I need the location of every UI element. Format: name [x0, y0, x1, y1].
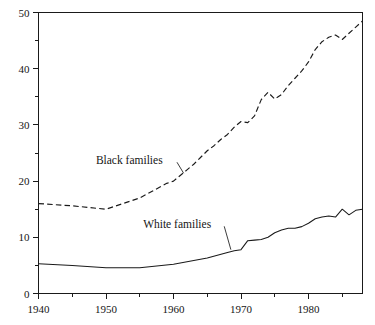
y-tick-label: 40 [19, 63, 31, 75]
x-tick-label: 1960 [163, 303, 186, 315]
x-tick-label: 1950 [95, 303, 118, 315]
x-axis-tick-labels: 19401950196019701980 [28, 303, 321, 315]
y-axis-ticks [33, 13, 39, 294]
y-tick-label: 30 [19, 119, 31, 131]
black-families-label-leader-line [177, 162, 184, 173]
y-tick-label: 20 [19, 175, 31, 187]
y-tick-label: 50 [19, 7, 31, 19]
x-tick-label: 1940 [28, 303, 51, 315]
y-axis-tick-labels: 01020304050 [19, 7, 31, 300]
plot-frame [39, 13, 363, 294]
white-families-label-leader-line [224, 226, 231, 249]
chart-canvas: 01020304050 19401950196019701980 Black f… [0, 0, 375, 325]
white-families-label: White families [143, 218, 212, 230]
x-tick-label: 1980 [298, 303, 321, 315]
data-series-group [39, 21, 363, 268]
line-chart: 01020304050 19401950196019701980 Black f… [0, 0, 375, 325]
series-annotations-group: Black familiesWhite families [96, 154, 231, 249]
black-families-label: Black families [96, 154, 163, 166]
y-tick-label: 0 [24, 288, 30, 300]
x-tick-label: 1970 [230, 303, 253, 315]
series-line-black-families [39, 21, 363, 209]
x-axis-ticks [39, 294, 343, 300]
y-tick-label: 10 [19, 231, 31, 243]
